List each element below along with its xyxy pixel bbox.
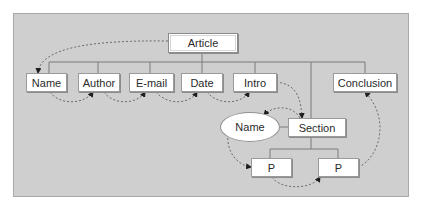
node-section[interactable]: Section bbox=[288, 118, 346, 137]
node-date[interactable]: Date bbox=[181, 73, 223, 92]
node-paragraph-1[interactable]: P bbox=[251, 158, 292, 177]
node-conclusion[interactable]: Conclusion bbox=[333, 73, 397, 92]
node-name[interactable]: Name bbox=[26, 73, 67, 92]
node-article[interactable]: Article bbox=[168, 33, 238, 53]
node-intro[interactable]: Intro bbox=[233, 73, 277, 92]
tree-lines bbox=[49, 52, 365, 158]
node-email[interactable]: E-mail bbox=[129, 73, 174, 92]
node-section-name[interactable]: Name bbox=[220, 112, 280, 142]
node-author[interactable]: Author bbox=[78, 73, 120, 92]
node-paragraph-2[interactable]: P bbox=[318, 158, 359, 177]
